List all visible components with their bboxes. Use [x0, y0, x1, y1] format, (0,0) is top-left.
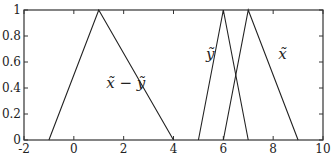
y-tick-label: 0.4 [2, 81, 21, 95]
y-tick-label: 1 [13, 3, 21, 17]
series-line [198, 10, 248, 140]
y-tick-label: 0.2 [2, 107, 21, 121]
x-tick-label: 8 [269, 142, 277, 156]
x-tick-label: 10 [315, 142, 330, 156]
x-tick-label: 0 [70, 142, 78, 156]
y-tick-label: 0.6 [2, 55, 21, 69]
x-tick-label: 2 [120, 142, 128, 156]
series-label: x̃ − ỹ [106, 74, 146, 92]
series-label: ỹ [205, 45, 215, 63]
series-labels: x̃ − ỹỹx̃ [106, 45, 287, 92]
y-tick-label: 0 [13, 133, 21, 147]
x-tick-label: 4 [170, 142, 178, 156]
y-tick-label: 0.8 [2, 29, 21, 43]
plot-frame [24, 10, 323, 140]
series-group [49, 10, 298, 140]
series-line [223, 10, 298, 140]
fuzzy-membership-chart: -2024681000.20.40.60.81 x̃ − ỹỹx̃ [0, 0, 332, 163]
x-tick-label: 6 [220, 142, 228, 156]
series-label: x̃ [278, 45, 287, 63]
